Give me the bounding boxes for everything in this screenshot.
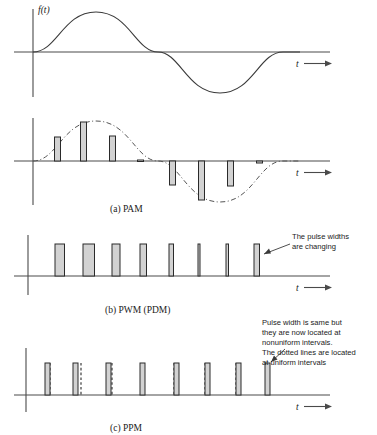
ppm-annotation-line: at uniform intervals bbox=[262, 358, 326, 367]
pwm-pulse bbox=[226, 244, 229, 276]
ppm-x-axis-label: t bbox=[296, 402, 299, 412]
pam-pulse bbox=[138, 160, 144, 162]
pwm-pulse bbox=[254, 244, 260, 276]
pwm-x-axis-arrow bbox=[304, 285, 332, 291]
pwm-pulse bbox=[140, 244, 147, 276]
ppm-pulse bbox=[45, 363, 50, 395]
ppm-pulse bbox=[236, 363, 241, 395]
pam-pulse bbox=[199, 161, 205, 200]
ppm-annotation-line: The dotted lines are located bbox=[262, 348, 356, 357]
pam-x-axis-arrow bbox=[304, 170, 332, 176]
ppm-pulse bbox=[265, 363, 270, 395]
signal-x-axis-label: t bbox=[296, 59, 299, 69]
pwm-pulse bbox=[112, 244, 120, 276]
ppm-pulse bbox=[205, 363, 210, 395]
ppm-pulse bbox=[140, 363, 145, 395]
pulse-modulation-figure: f(t) t t (a) PAM bbox=[0, 0, 377, 435]
panel-ppm: Pulse width is same but they are now loc… bbox=[14, 318, 356, 434]
figure-container: f(t) t t (a) PAM bbox=[0, 0, 377, 435]
pwm-annotation-line: are changing bbox=[292, 242, 336, 251]
pwm-pulse bbox=[198, 244, 200, 276]
pam-pulse bbox=[228, 161, 234, 186]
pwm-pulse bbox=[169, 244, 174, 276]
ppm-annotation-line: they are now located at bbox=[262, 328, 341, 337]
pwm-pulse bbox=[83, 244, 95, 276]
ppm-caption: (c) PPM bbox=[110, 423, 142, 434]
pwm-pulse bbox=[55, 244, 65, 276]
pam-pulse bbox=[55, 137, 61, 161]
pam-caption: (a) PAM bbox=[110, 204, 143, 215]
pam-pulse bbox=[110, 136, 116, 161]
pwm-x-axis-label: t bbox=[296, 283, 299, 293]
pwm-annotation-line: The pulse widths bbox=[292, 232, 349, 241]
ppm-annotation-line: nonuniform intervals. bbox=[262, 338, 333, 347]
signal-y-axis-label: f(t) bbox=[38, 5, 50, 16]
pwm-caption: (b) PWM (PDM) bbox=[105, 305, 170, 316]
pam-pulse bbox=[170, 161, 176, 185]
pwm-annotation-leader bbox=[264, 244, 290, 254]
panel-pam: t (a) PAM bbox=[14, 118, 332, 215]
ppm-pulse bbox=[73, 363, 78, 395]
pam-pulse bbox=[257, 161, 263, 163]
ppm-x-axis-arrow bbox=[304, 404, 332, 410]
ppm-pulse bbox=[106, 363, 111, 395]
ppm-pulse bbox=[174, 363, 179, 395]
panel-signal: f(t) t bbox=[14, 5, 332, 97]
ppm-annotation-line: Pulse width is same but bbox=[262, 318, 343, 327]
signal-x-axis-arrow bbox=[304, 61, 332, 67]
pam-x-axis-label: t bbox=[296, 168, 299, 178]
pam-pulse bbox=[81, 122, 87, 161]
panel-pwm: The pulse widths are changing t (b) PWM … bbox=[14, 232, 349, 316]
